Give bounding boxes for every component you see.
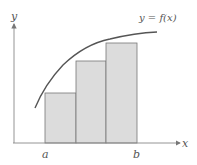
riemann-sum-diagram: y x y = f(x) a b (0, 0, 197, 165)
interval-end-label: b (133, 148, 140, 161)
rectangle-3 (106, 43, 137, 143)
curve-label: y = f(x) (138, 12, 177, 23)
rectangles (45, 43, 137, 143)
y-axis-label: y (10, 10, 18, 23)
x-axis-label: x (182, 137, 189, 150)
interval-start-label: a (42, 148, 49, 161)
rectangle-2 (76, 61, 106, 143)
rectangle-1 (45, 93, 76, 143)
